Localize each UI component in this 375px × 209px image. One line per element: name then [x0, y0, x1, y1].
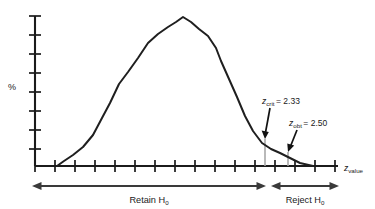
z-obt-value: = 2.50 — [303, 118, 327, 128]
x-axis-group: zvalue — [35, 160, 364, 174]
z-crit-arrowhead — [262, 131, 269, 139]
z-obt-subscript: obt — [293, 122, 302, 129]
distribution-figure: % zvalue — [0, 0, 375, 209]
x-axis-label: zvalue — [343, 163, 364, 174]
distribution-curve-group — [57, 17, 313, 166]
retain-region-label-main: Retain H — [129, 195, 165, 205]
z-crit-value: = 2.33 — [276, 96, 300, 106]
x-axis-label-sub: value — [348, 167, 363, 174]
retain-region-arrowhead-right — [257, 182, 267, 190]
retain-region-arrowhead-left — [32, 182, 42, 190]
retain-region-group: Retain H0 — [32, 182, 266, 206]
z-crit-annotation: zcrit= 2.33 — [261, 96, 300, 139]
retain-region-label-sub: 0 — [165, 199, 169, 206]
reject-region-label-main: Reject H — [286, 195, 321, 205]
reject-region-label-sub: 0 — [321, 199, 325, 206]
reject-region-label: Reject H0 — [286, 195, 325, 206]
reject-region-arrowhead-left — [271, 182, 281, 190]
z-obt-label: zobt= 2.50 — [288, 118, 328, 129]
z-obt-arrowhead — [287, 143, 294, 152]
retain-region-label: Retain H0 — [129, 195, 169, 206]
z-crit-label: zcrit= 2.33 — [261, 96, 300, 107]
y-axis-label: % — [8, 82, 16, 92]
reject-region-group: Reject H0 — [271, 182, 339, 206]
chart-canvas: % zvalue — [0, 0, 375, 209]
z-obt-annotation: zobt= 2.50 — [287, 118, 327, 152]
y-axis-group: % — [8, 16, 41, 166]
z-crit-arrow-shaft — [266, 108, 270, 132]
z-crit-subscript: crit — [266, 100, 275, 107]
normal-distribution-curve — [57, 17, 313, 166]
z-obt-arrow-shaft — [291, 130, 297, 146]
reject-region-arrowhead-right — [330, 182, 340, 190]
